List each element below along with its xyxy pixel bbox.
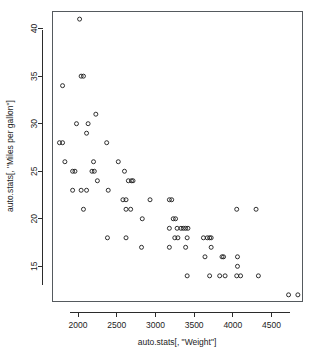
y-axis-title: auto.stats[, "Miles per gallon"] [5, 100, 15, 212]
x-axis-title: auto.stats[, "Weight"] [138, 337, 217, 347]
x-tick-label: 4500 [262, 320, 281, 330]
x-tick-label: 2500 [107, 320, 126, 330]
plot-background [0, 0, 318, 360]
y-tick-label: 40 [30, 24, 40, 34]
y-tick-label: 20 [30, 214, 40, 224]
x-tick-label: 2000 [69, 320, 88, 330]
y-tick-label: 25 [30, 166, 40, 176]
y-tick-label: 30 [30, 119, 40, 129]
x-tick-label: 3500 [185, 320, 204, 330]
y-tick-label: 35 [30, 71, 40, 81]
x-tick-label: 3000 [146, 320, 165, 330]
plot-canvas: 200025003000350040004500 152025303540 au… [0, 0, 318, 360]
y-tick-label: 15 [30, 261, 40, 271]
scatter-plot-figure: 200025003000350040004500 152025303540 au… [0, 0, 318, 360]
x-tick-label: 4000 [223, 320, 242, 330]
